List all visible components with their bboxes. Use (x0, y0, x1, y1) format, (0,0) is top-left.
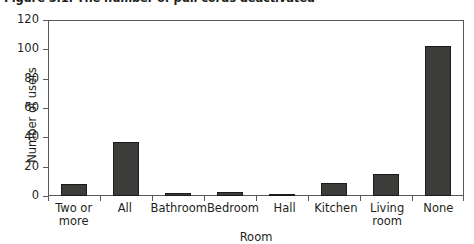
x-tick-label-line: All (118, 201, 132, 215)
x-tick-mark (463, 196, 464, 201)
y-tick-mark (43, 137, 48, 138)
x-tick-label-line: Hall (274, 201, 296, 215)
y-tick-label: 120 (0, 14, 39, 26)
x-tick-label-line: None (423, 201, 453, 215)
x-tick-mark (308, 196, 309, 201)
x-tick-mark (100, 196, 101, 201)
x-tick-label-hall: Hall (259, 202, 310, 227)
x-tick-label-bathroom: Bathroom (151, 202, 207, 227)
x-tick-label-bedroom: Bedroom (207, 202, 259, 227)
x-tick-mark (412, 196, 413, 201)
x-tick-label-line: Bathroom (151, 201, 207, 215)
x-tick-label-line: room (372, 214, 402, 228)
x-tick-label-two-or-more: Two or more (48, 202, 99, 227)
x-axis-title: Room (48, 230, 464, 244)
y-tick-mark (43, 108, 48, 109)
x-tick-label-line: Bedroom (207, 201, 259, 215)
x-tick-label-line: Kitchen (314, 201, 357, 215)
figure-container: Figure 5.1: The number of pull cords dea… (0, 0, 474, 244)
y-tick-mark (43, 20, 48, 21)
x-tick-mark (360, 196, 361, 201)
x-tick-label-living-room: Living room (362, 202, 413, 227)
x-axis-tick-labels: Two or more All Bathroom Bedroom Hall Ki… (48, 202, 464, 227)
x-tick-mark (48, 196, 49, 201)
y-tick-mark (43, 167, 48, 168)
x-tick-label-all: All (99, 202, 150, 227)
y-tick-mark (43, 79, 48, 80)
y-axis-title: Number of users (25, 35, 39, 195)
x-tick-label-line: more (59, 214, 89, 228)
x-tick-label-none: None (413, 202, 464, 227)
x-tick-label-kitchen: Kitchen (310, 202, 361, 227)
y-tick-mark (43, 49, 48, 50)
